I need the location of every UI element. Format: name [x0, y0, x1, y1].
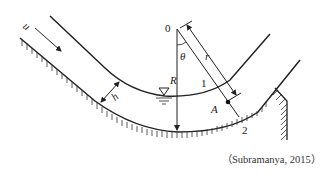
label-center-0: 0: [165, 22, 171, 34]
label-u: u: [21, 19, 33, 32]
label-point-2: 2: [242, 124, 248, 136]
point-A-marker: [226, 100, 231, 105]
label-h: h: [109, 90, 121, 103]
label-point-A: A: [210, 103, 218, 115]
r-dimension-tick-top: [180, 21, 192, 28]
right-wall: [275, 88, 287, 140]
label-theta: θ: [180, 50, 186, 62]
label-r: r: [205, 50, 210, 62]
label-point-1: 1: [201, 77, 207, 89]
source-caption: （Subramanya, 2015）: [222, 151, 321, 166]
label-R: R: [169, 74, 177, 86]
bed-hatching: [22, 40, 266, 138]
r-dimension-line: [187, 25, 236, 95]
channel-diagram: u h 0 θ R r 1 A 2: [0, 0, 321, 176]
channel-bed-line: [20, 38, 300, 132]
water-surface-line: [50, 16, 270, 96]
theta-arc: [177, 42, 186, 45]
radial-line: [177, 29, 239, 117]
flow-velocity-arrow: [35, 28, 61, 51]
